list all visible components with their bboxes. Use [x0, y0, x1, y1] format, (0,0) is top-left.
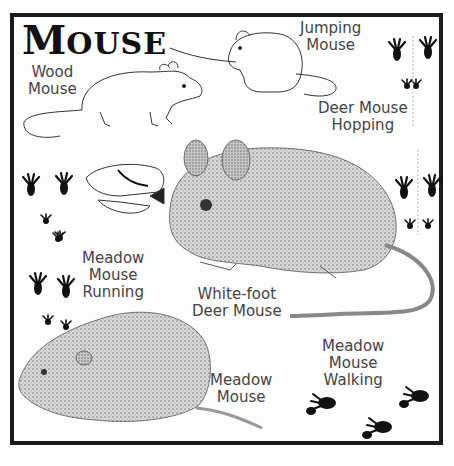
- label-line: Walking: [322, 372, 384, 389]
- label-wood-mouse: Wood Mouse: [28, 64, 77, 98]
- meadow-mouse-walking-tracks: [306, 387, 429, 439]
- label-jumping-mouse: Jumping Mouse: [300, 20, 361, 54]
- label-line: Mouse: [322, 355, 384, 372]
- label-line: White-foot: [192, 286, 282, 303]
- label-line: Hopping: [318, 117, 408, 134]
- deer-mouse-hopping-tracks: [389, 36, 440, 235]
- label-meadow-mouse: Meadow Mouse: [210, 372, 272, 406]
- label-line: Deer Mouse: [318, 100, 408, 117]
- label-line: Mouse: [28, 81, 77, 98]
- label-deer-mouse-hopping: Deer Mouse Hopping: [318, 100, 408, 134]
- label-white-foot-deer-mouse: White-foot Deer Mouse: [192, 286, 282, 320]
- mouse-skull-drawing: [86, 164, 164, 213]
- label-line: Running: [82, 284, 144, 301]
- label-line: Mouse: [210, 389, 272, 406]
- label-line: Jumping: [300, 20, 361, 37]
- label-meadow-mouse-walking: Meadow Mouse Walking: [322, 338, 384, 389]
- label-meadow-mouse-running: Meadow Mouse Running: [82, 250, 144, 301]
- label-line: Meadow: [322, 338, 384, 355]
- label-line: Meadow: [82, 250, 144, 267]
- label-line: Mouse: [300, 37, 361, 54]
- label-line: Wood: [28, 64, 77, 81]
- label-line: Deer Mouse: [192, 303, 282, 320]
- label-line: Mouse: [82, 267, 144, 284]
- meadow-mouse-running-tracks: [23, 173, 74, 330]
- label-line: Meadow: [210, 372, 272, 389]
